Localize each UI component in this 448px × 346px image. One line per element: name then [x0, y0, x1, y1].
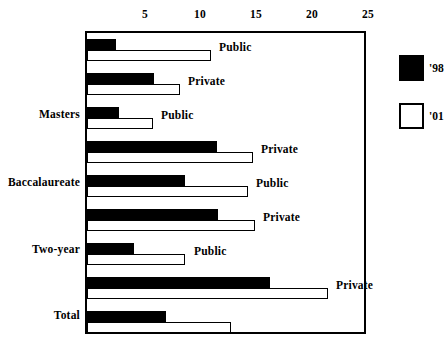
bar-series-label-6: Private	[263, 211, 300, 223]
bar-98-total	[87, 311, 166, 322]
bar-98-baccalaureate-public	[87, 175, 185, 186]
bar-series-label-5: Public	[256, 177, 289, 189]
bar-01-baccalaureate-public	[87, 186, 248, 197]
plot-area: Public Private Public Private Public Pri…	[85, 31, 366, 334]
category-label-total: Total	[54, 309, 80, 321]
x-axis-tick-15: 15	[236, 8, 276, 20]
bar-98-twoyear-public	[87, 243, 134, 254]
x-axis-tick-20: 20	[292, 8, 332, 20]
bar-98-twoyear-private-a	[87, 209, 218, 220]
bar-01-twoyear-private-a	[87, 220, 255, 231]
bar-98-masters-private	[87, 73, 154, 84]
category-label-two-year: Two-year	[32, 243, 80, 255]
bar-01-baccalaureate-private	[87, 152, 253, 163]
x-axis-tick-5: 5	[125, 8, 165, 20]
legend-label-98: '98	[429, 62, 444, 74]
bar-98-masters-public-2	[87, 107, 119, 118]
legend-swatch-hollow-icon	[399, 103, 424, 129]
x-axis-tick-25: 25	[348, 8, 388, 20]
bar-01-masters-private	[87, 84, 180, 95]
bar-series-label-3: Public	[161, 109, 194, 121]
bar-01-total	[87, 322, 231, 333]
category-label-masters: Masters	[39, 108, 80, 120]
bar-01-masters-public-1	[87, 50, 211, 61]
bar-series-label-2: Private	[188, 75, 225, 87]
legend-item-01: '01	[399, 103, 444, 129]
legend-label-01: '01	[429, 110, 444, 122]
bar-98-baccalaureate-private	[87, 141, 217, 152]
bar-series-label-8: Private	[336, 279, 373, 291]
x-axis-tick-10: 10	[180, 8, 220, 20]
bar-98-twoyear-private-b	[87, 277, 270, 288]
bar-98-masters-public-1	[87, 39, 116, 50]
chart-caption	[85, 337, 385, 346]
bar-series-label-1: Public	[219, 41, 252, 53]
bar-series-label-7: Public	[194, 245, 227, 257]
category-label-baccalaureate: Baccalaureate	[8, 176, 80, 188]
bar-01-masters-public-2	[87, 118, 153, 129]
legend-item-98: '98	[399, 55, 444, 81]
legend-swatch-filled-icon	[399, 55, 424, 81]
bar-01-twoyear-private-b	[87, 288, 328, 299]
bar-01-twoyear-public	[87, 254, 185, 265]
bar-chart: 5 10 15 20 25 Public Privat	[0, 0, 448, 346]
bar-series-label-4: Private	[261, 143, 298, 155]
